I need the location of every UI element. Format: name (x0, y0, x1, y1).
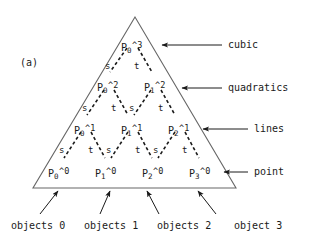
bezier-subdivision-triangle-figure: (a) P0^3P0^2P1^2P0^1P1^1P2^1P0^0P1^0P2^0… (0, 0, 317, 239)
bottom-annotation-1: objects 1 (84, 221, 138, 231)
node-subscript: 2 (148, 172, 153, 181)
edge-label-s: s (129, 104, 134, 113)
node-superscript: ^1 (85, 123, 95, 133)
bottom-annotation-0: objects 0 (11, 221, 65, 231)
node-subscript: 1 (101, 172, 106, 181)
edge-label-t: t (134, 62, 139, 71)
node-label-point: P0^0 (48, 167, 69, 181)
side-annotation-cubic: cubic (228, 40, 258, 50)
edge-label-s: s (59, 146, 64, 155)
side-annotation-arrows (162, 45, 248, 172)
node-label-point: P1^0 (95, 167, 116, 181)
bottom-annotation-3: object 3 (234, 221, 282, 231)
edge-label-s: s (82, 104, 87, 113)
bottom-annotation-arrows (40, 191, 216, 214)
node-label-lines: P2^1 (168, 124, 189, 138)
node-subscript: 0 (127, 46, 132, 55)
node-subscript: 1 (127, 129, 132, 138)
bottom-annotation-2: objects 2 (157, 221, 211, 231)
node-subscript: 0 (80, 129, 85, 138)
node-subscript: 0 (54, 172, 59, 181)
edge-label-t: t (111, 104, 116, 113)
edge-label-s: s (153, 146, 158, 155)
bottom-annotation-arrow (147, 191, 159, 214)
node-subscript: 1 (150, 86, 155, 95)
node-superscript: ^0 (200, 166, 210, 176)
node-label-quadratics: P0^2 (97, 81, 118, 95)
node-label-point: P2^0 (142, 167, 163, 181)
side-annotation-point: point (254, 167, 284, 177)
node-label-lines: P1^1 (121, 124, 142, 138)
node-label-quadratics: P1^2 (144, 81, 165, 95)
node-superscript: ^0 (106, 166, 116, 176)
node-label-cubic: P0^3 (121, 41, 142, 55)
edge-label-s: s (105, 62, 110, 71)
edge-label-t: t (158, 104, 163, 113)
node-superscript: ^2 (155, 80, 165, 90)
node-superscript: ^0 (153, 166, 163, 176)
side-annotation-lines: lines (254, 124, 284, 134)
bottom-annotation-arrow (40, 191, 58, 214)
node-subscript: 2 (174, 129, 179, 138)
node-label-lines: P0^1 (74, 124, 95, 138)
panel-label: (a) (20, 58, 38, 68)
figure-canvas (0, 0, 317, 239)
node-label-point: P3^0 (189, 167, 210, 181)
edge-label-t: t (135, 146, 140, 155)
edge-label-t: t (88, 146, 93, 155)
edge-label-s: s (106, 146, 111, 155)
node-subscript: 0 (103, 86, 108, 95)
bottom-annotation-arrow (100, 191, 110, 214)
node-superscript: ^3 (132, 40, 142, 50)
side-annotation-quadratics: quadratics (228, 83, 288, 93)
node-superscript: ^2 (108, 80, 118, 90)
node-superscript: ^1 (179, 123, 189, 133)
edge-label-t: t (182, 146, 187, 155)
node-subscript: 3 (195, 172, 200, 181)
node-superscript: ^0 (59, 166, 69, 176)
bottom-annotation-arrow (198, 191, 216, 214)
node-superscript: ^1 (132, 123, 142, 133)
